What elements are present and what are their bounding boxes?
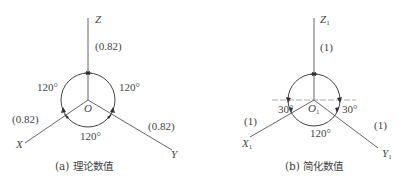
- x-coef-a: (0.82): [12, 113, 39, 126]
- angle-left-a: 120°: [37, 81, 58, 93]
- angle-right-a: 120°: [119, 81, 140, 93]
- z-axis-label-a: Z: [95, 13, 102, 25]
- x-coef-b: (1): [244, 115, 257, 128]
- caption-b: (b) 简化数值: [285, 160, 344, 172]
- x-axis-label-a: X: [15, 138, 24, 150]
- x-axis-label-b: X1: [241, 137, 253, 151]
- y-axis-label-a: Y: [171, 148, 179, 160]
- y-coef-b: (1): [374, 119, 387, 132]
- z-coef-a: (0.82): [95, 40, 122, 53]
- z-axis-label-b: Z1: [320, 13, 330, 27]
- angle-left-b: 30°: [278, 103, 293, 115]
- origin-label-a: O: [84, 102, 92, 114]
- axonometric-diagram: Z (0.82) 120° 120° 120° O (0.82) (0.82) …: [0, 0, 418, 187]
- figure-b-simplified: Z1 (1) 30° 30° 120° O1 (1) (1) X1 Y1 (b)…: [241, 13, 392, 172]
- z-coef-b: (1): [320, 41, 333, 54]
- y-axis-label-b: Y1: [382, 147, 392, 161]
- angle-bottom-a: 120°: [80, 130, 101, 142]
- angle-right-b: 30°: [342, 103, 357, 115]
- caption-a: (a) 理论数值: [55, 160, 114, 172]
- figure-a-theoretical: Z (0.82) 120° 120° 120° O (0.82) (0.82) …: [12, 13, 179, 172]
- y-coef-a: (0.82): [148, 120, 175, 133]
- angle-bottom-b: 120°: [310, 127, 331, 139]
- origin-label-b: O1: [308, 102, 320, 116]
